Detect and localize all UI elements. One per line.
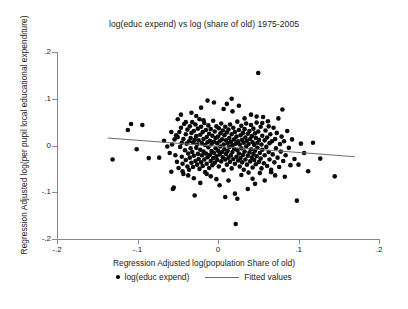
scatter-point — [239, 124, 244, 129]
scatter-point — [188, 155, 193, 160]
scatter-point — [140, 123, 145, 128]
scatter-point — [226, 178, 231, 183]
scatter-point — [258, 171, 263, 176]
scatter-point — [295, 198, 300, 203]
scatter-point — [276, 116, 281, 121]
scatter-point — [268, 132, 273, 137]
scatter-point — [212, 100, 217, 105]
scatter-point — [189, 161, 194, 166]
scatter-point — [233, 222, 238, 227]
scatter-point — [178, 145, 183, 150]
scatter-point — [192, 193, 197, 198]
scatter-point — [270, 152, 275, 157]
scatter-point — [201, 118, 206, 123]
scatter-point — [221, 107, 226, 112]
legend-item-fitted: Fitted values — [205, 272, 291, 282]
scatter-point — [256, 129, 261, 134]
scatter-point — [245, 187, 250, 192]
scatter-point — [231, 125, 236, 130]
scatter-point — [208, 174, 213, 179]
scatter-point — [237, 103, 242, 108]
scatter-point — [194, 114, 199, 119]
scatter-point — [263, 128, 268, 133]
scatter-point — [221, 168, 226, 173]
scatter-point — [195, 162, 200, 167]
scatter-point — [179, 125, 184, 130]
scatter-point — [196, 152, 201, 157]
scatter-point — [157, 155, 162, 160]
scatter-point — [272, 160, 277, 165]
scatter-point — [165, 144, 170, 149]
scatter-point — [197, 117, 202, 122]
scatter-point — [285, 129, 290, 134]
scatter-point — [176, 166, 181, 171]
scatter-point — [296, 162, 301, 167]
scatter-point — [129, 122, 134, 127]
scatter-point — [256, 71, 261, 76]
scatter-point — [247, 129, 252, 134]
scatter-point — [211, 118, 216, 123]
scatter-point — [233, 161, 238, 166]
scatter-point — [188, 136, 193, 141]
scatter-point — [110, 157, 115, 162]
scatter-point — [175, 117, 180, 122]
scatter-point — [253, 182, 258, 187]
scatter-point — [278, 142, 283, 147]
scatter-point — [212, 129, 217, 134]
scatter-point — [184, 132, 189, 137]
scatter-point — [269, 168, 274, 173]
scatter-point — [287, 146, 292, 151]
scatter-point — [283, 175, 288, 180]
legend-item-scatter: log(educ expend) — [116, 272, 189, 282]
scatter-point — [186, 151, 191, 156]
scatter-point — [235, 197, 240, 202]
scatter-point — [282, 139, 287, 144]
scatter-point — [306, 169, 311, 174]
scatter-point — [311, 140, 316, 145]
scatter-point — [192, 129, 197, 134]
scatter-point — [167, 151, 172, 156]
scatter-point — [244, 121, 249, 126]
scatter-point — [279, 134, 284, 139]
scatter-point — [254, 154, 259, 159]
scatter-point — [260, 121, 265, 126]
scatter-point — [259, 166, 264, 171]
scatter-point — [179, 112, 184, 117]
scatter-point — [266, 124, 271, 129]
scatter-point — [189, 110, 194, 115]
scatter-point — [254, 114, 259, 119]
scatter-point — [184, 158, 189, 163]
scatter-point — [180, 169, 185, 174]
scatter-point — [169, 130, 174, 135]
scatter-point — [292, 157, 297, 162]
scatter-point — [134, 147, 139, 152]
scatter-point — [290, 137, 295, 142]
scatter-point — [267, 157, 272, 162]
scatter-point — [187, 168, 192, 173]
scatter-point — [175, 160, 180, 165]
scatter-point — [229, 166, 234, 171]
scatter-point — [193, 122, 198, 127]
scatter-point — [277, 165, 282, 170]
scatter-point — [266, 119, 271, 124]
scatter-point — [260, 133, 265, 138]
scatter-point — [262, 178, 267, 183]
scatter-point — [262, 153, 267, 158]
scatter-point — [273, 137, 278, 142]
scatter-point — [250, 165, 255, 170]
scatter-point — [220, 137, 225, 142]
scatter-point — [183, 148, 188, 153]
scatter-point — [200, 164, 205, 169]
scatter-point — [273, 173, 278, 178]
scatter-point — [239, 173, 244, 178]
scatter-point — [225, 149, 230, 154]
scatter-point — [179, 154, 184, 159]
scatter-point — [254, 120, 259, 125]
scatter-point — [194, 134, 199, 139]
scatter-point — [242, 127, 247, 132]
scatter-point — [217, 183, 222, 188]
chart-figure: log(educ expend) vs log (share of old) 1… — [0, 0, 408, 309]
scatter-point — [237, 128, 242, 133]
scatter-point — [261, 115, 266, 120]
legend-label-fitted: Fitted values — [244, 272, 291, 282]
